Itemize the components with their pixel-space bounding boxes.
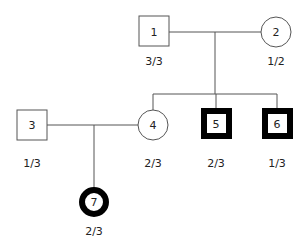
genotype-label: 1/3 [268, 157, 286, 170]
individual-id: 6 [274, 118, 281, 131]
individual-id: 5 [213, 118, 220, 131]
individual-id: 7 [91, 196, 98, 209]
genotype-label: 2/3 [144, 157, 162, 170]
genotype-label: 3/3 [145, 55, 163, 68]
genotype-label: 1/3 [23, 157, 41, 170]
individual-1[interactable]: 1 3/3 [139, 16, 169, 68]
individual-id: 4 [150, 119, 157, 132]
individual-4[interactable]: 4 2/3 [138, 110, 168, 170]
individual-2[interactable]: 2 1/2 [261, 17, 291, 68]
individual-5[interactable]: 5 2/3 [204, 111, 229, 170]
individual-id: 2 [273, 26, 280, 39]
individual-id: 3 [29, 119, 36, 132]
pedigree-chart: 1 3/3 2 1/2 3 1/3 4 2/3 5 2/3 6 1/3 7 2/… [0, 0, 307, 249]
individual-id: 1 [151, 26, 158, 39]
genotype-label: 1/2 [267, 55, 285, 68]
individual-6[interactable]: 6 1/3 [265, 111, 290, 170]
genotype-label: 2/3 [85, 225, 103, 238]
genotype-label: 2/3 [207, 157, 225, 170]
individual-3[interactable]: 3 1/3 [17, 110, 47, 170]
individual-7[interactable]: 7 2/3 [82, 190, 106, 238]
